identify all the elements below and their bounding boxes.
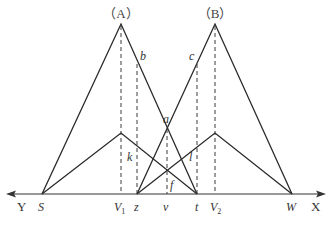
point-t: t	[195, 200, 199, 214]
label-b: b	[140, 49, 146, 63]
label-a: a	[163, 112, 169, 126]
axis-label-x: X	[311, 199, 321, 214]
label-c: c	[189, 49, 195, 63]
panel-a-label: （A）	[103, 6, 138, 21]
axis-label-y: Y	[17, 199, 27, 214]
point-v2: V2	[210, 200, 221, 216]
point-s: S	[38, 200, 44, 214]
label-l: l	[189, 150, 193, 164]
label-f: f	[170, 178, 175, 192]
point-v1: V1	[114, 200, 125, 216]
point-v: v	[163, 200, 169, 214]
supply-demand-diagram: （A） （B） b c a k l f Y X S V1 z v t V2 W	[0, 0, 335, 226]
point-w: W	[286, 200, 297, 214]
label-k: k	[127, 150, 133, 164]
point-z: z	[133, 200, 139, 214]
panel-b-label: （B）	[198, 6, 233, 21]
triangle-a-large	[42, 24, 197, 194]
